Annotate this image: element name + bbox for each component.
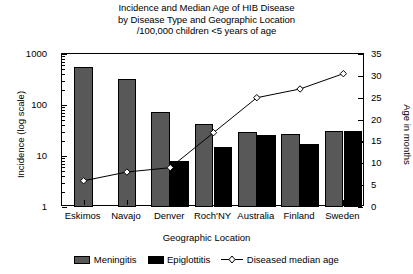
x-tick-denver xyxy=(170,200,171,205)
y-tick-left-minor-400 xyxy=(62,74,65,75)
y-tick-right-35 xyxy=(358,54,363,55)
x-tick-eskimos xyxy=(84,200,85,205)
legend-item-median-age: Diseased median age xyxy=(221,254,338,265)
plot-area xyxy=(61,53,364,206)
y-tick-left-minor-30 xyxy=(62,132,65,133)
legend-label-epiglottitis: Epiglottitis xyxy=(167,254,210,265)
y-tick-left-minor-5 xyxy=(62,171,65,172)
y-tick-left-minor-80 xyxy=(62,110,65,111)
chart-title-line-1: Incidence and Median Age of HIB Disease xyxy=(0,2,413,14)
x-tick-australia xyxy=(257,200,258,205)
y-tick-left-1 xyxy=(62,207,67,208)
y-tick-left-minor-500 xyxy=(62,69,65,70)
y-axis-right-label-5: 5 xyxy=(371,179,411,190)
y-tick-right-25 xyxy=(358,98,363,99)
x-axis-label-australia: Australia xyxy=(237,210,274,221)
y-tick-left-1000 xyxy=(62,54,67,55)
y-axis-right-label-0: 0 xyxy=(371,201,411,212)
y-tick-right-15 xyxy=(358,141,363,142)
y-tick-left-minor-8 xyxy=(62,161,65,162)
y-tick-left-minor-300 xyxy=(62,81,65,82)
y-tick-left-10 xyxy=(62,156,67,157)
x-axis-label-sweden: Sweden xyxy=(325,210,359,221)
y-tick-right-0 xyxy=(358,207,363,208)
y-axis-left-label-1000: 1000 xyxy=(1,48,47,59)
chart-legend: Meningitis Epiglottitis Diseased median … xyxy=(0,254,413,265)
chart-title: Incidence and Median Age of HIB Disease … xyxy=(0,2,413,37)
diamond-marker-line-icon xyxy=(221,255,243,264)
y-axis-left-title: Incidence (log scale) xyxy=(15,60,26,210)
legend-label-meningitis: Meningitis xyxy=(94,254,137,265)
meningitis-swatch-icon xyxy=(74,256,90,264)
x-tick-navajo xyxy=(127,200,128,205)
y-tick-left-minor-200 xyxy=(62,90,65,91)
y-axis-right-label-20: 20 xyxy=(371,113,411,124)
y-tick-left-minor-9 xyxy=(62,158,65,159)
y-tick-left-minor-4 xyxy=(62,176,65,177)
y-axis-right-label-10: 10 xyxy=(371,157,411,168)
y-tick-right-10 xyxy=(358,163,363,164)
legend-item-meningitis: Meningitis xyxy=(74,254,136,265)
y-tick-left-minor-7 xyxy=(62,164,65,165)
x-axis-label-finland: Finland xyxy=(283,210,314,221)
chart-title-line-2: by Disease Type and Geographic Location xyxy=(0,14,413,26)
legend-label-median-age: Diseased median age xyxy=(247,254,339,265)
y-tick-right-20 xyxy=(358,120,363,121)
y-axis-right-label-25: 25 xyxy=(371,91,411,102)
y-axis-left-label-1: 1 xyxy=(1,201,47,212)
y-tick-left-100 xyxy=(62,105,67,106)
y-tick-left-minor-50 xyxy=(62,120,65,121)
y-tick-left-minor-6 xyxy=(62,167,65,168)
y-tick-right-5 xyxy=(358,185,363,186)
x-tick-roch-ny xyxy=(214,200,215,205)
x-axis-label-roch-ny: Roch'NY xyxy=(194,210,231,221)
x-tick-finland xyxy=(300,200,301,205)
y-tick-left-minor-60 xyxy=(62,116,65,117)
x-axis-label-navajo: Navajo xyxy=(111,210,141,221)
y-tick-left-minor-2 xyxy=(62,192,65,193)
axis-ticks-layer xyxy=(62,54,363,205)
chart-figure: Incidence and Median Age of HIB Disease … xyxy=(0,0,413,274)
y-tick-left-minor-20 xyxy=(62,141,65,142)
legend-item-epiglottitis: Epiglottitis xyxy=(148,254,211,265)
epiglottitis-swatch-icon xyxy=(148,256,164,264)
y-axis-left-label-10: 10 xyxy=(1,150,47,161)
y-tick-left-minor-700 xyxy=(62,62,65,63)
x-axis-label-denver: Denver xyxy=(154,210,185,221)
y-tick-left-minor-900 xyxy=(62,56,65,57)
y-tick-left-minor-800 xyxy=(62,59,65,60)
y-tick-left-minor-600 xyxy=(62,65,65,66)
x-axis-label-eskimos: Eskimos xyxy=(65,210,101,221)
y-tick-right-30 xyxy=(358,76,363,77)
y-tick-left-minor-90 xyxy=(62,107,65,108)
y-axis-left-label-100: 100 xyxy=(1,99,47,110)
y-tick-left-minor-3 xyxy=(62,183,65,184)
y-axis-right-label-35: 35 xyxy=(371,48,411,59)
x-tick-sweden xyxy=(343,200,344,205)
y-tick-left-minor-40 xyxy=(62,125,65,126)
y-tick-left-minor-70 xyxy=(62,113,65,114)
y-axis-right-label-15: 15 xyxy=(371,135,411,146)
y-axis-right-label-30: 30 xyxy=(371,69,411,80)
x-axis-title: Geographic Location xyxy=(0,232,413,243)
chart-title-line-3: /100,000 children <5 years of age xyxy=(0,25,413,37)
